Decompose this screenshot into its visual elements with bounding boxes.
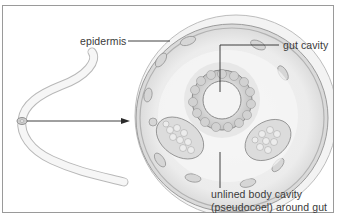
gut (184, 62, 260, 138)
arrow-to-cross-section (27, 118, 130, 124)
roundworm-illustration (17, 52, 124, 182)
epidermis-label: epidermis (80, 35, 126, 47)
body-cavity-label-line2: (pseudocoel) around gut (211, 201, 327, 213)
gut-cavity-label: gut cavity (283, 39, 328, 51)
body-cavity-label-line1: unlined body cavity (211, 188, 302, 200)
diagram-artwork (0, 0, 339, 219)
gut-cavity (203, 81, 241, 119)
